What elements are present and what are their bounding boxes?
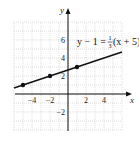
equation-frac-num: 1 — [109, 35, 112, 41]
data-point — [48, 74, 52, 78]
y-tick-labels: 642−2 — [56, 36, 65, 117]
y-tick-label: 4 — [61, 54, 65, 63]
equation-frac-den: 3 — [109, 43, 112, 49]
y-tick-label: 2 — [61, 72, 65, 81]
y-axis-label: y — [59, 5, 64, 15]
graph: x y −4−224 642−2 y − 1 = 1 3 (x + 5) — [0, 0, 139, 148]
x-tick-label: −4 — [28, 96, 37, 105]
x-tick-label: −2 — [46, 96, 55, 105]
data-point — [21, 83, 25, 87]
y-tick-label: −2 — [56, 108, 65, 117]
x-tick-label: 2 — [84, 96, 88, 105]
equation-rhs: (x + 5) — [113, 36, 139, 48]
x-axis-label: x — [129, 95, 134, 105]
x-tick-label: 4 — [102, 96, 106, 105]
data-point — [75, 65, 79, 69]
equation-label: y − 1 = — [77, 36, 106, 47]
y-axis-arrow-icon — [66, 8, 71, 14]
x-tick-labels: −4−224 — [28, 96, 106, 105]
y-tick-label: 6 — [61, 36, 65, 45]
